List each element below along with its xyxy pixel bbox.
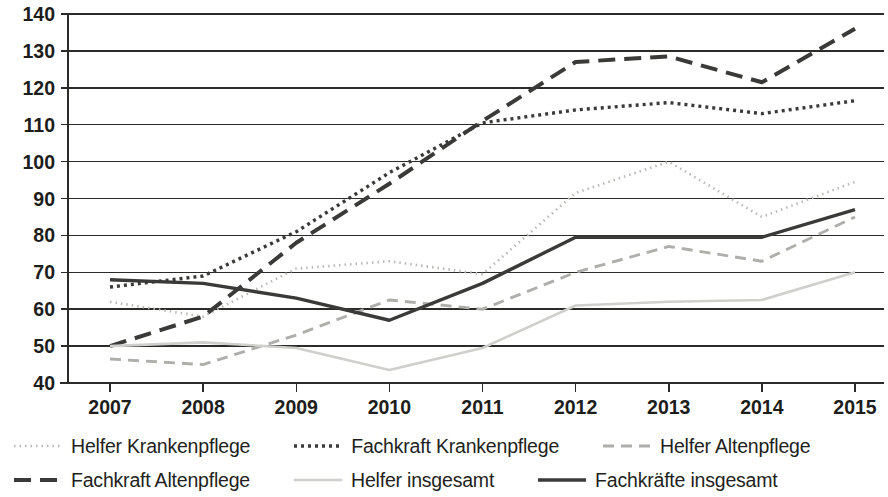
- series-line-helfer-krankenpflege: [110, 162, 855, 317]
- legend-label: Helfer insgesamt: [351, 469, 494, 492]
- y-tick-label: 100: [22, 151, 55, 173]
- data-series: [110, 29, 855, 370]
- legend-swatch-dotted-dark: [294, 439, 342, 453]
- legend-swatch-dotted-light: [14, 439, 62, 453]
- legend-swatch-solid-dark-glyph: [538, 473, 586, 487]
- legend-item-helfer-insgesamt[interactable]: Helfer insgesamt: [294, 463, 494, 497]
- legend-row: Helfer Krankenpflege Fachkraft Krankenpf…: [14, 429, 880, 463]
- y-tick-label: 120: [22, 77, 55, 99]
- legend-swatch-solid-light: [294, 473, 342, 487]
- x-tick-label: 2011: [461, 396, 503, 418]
- y-tick-label: 140: [22, 3, 55, 25]
- x-tick-label: 2012: [554, 396, 598, 418]
- y-tick-label: 40: [33, 372, 55, 394]
- chart-legend: Helfer Krankenpflege Fachkraft Krankenpf…: [0, 425, 888, 497]
- legend-label: Fachkraft Altenpflege: [71, 469, 250, 492]
- x-axis-tick-labels: 200720082009201020112012201320142015: [88, 396, 877, 418]
- legend-swatch-dotted-light-glyph: [14, 439, 62, 453]
- legend-item-fachkraefte-insgesamt[interactable]: Fachkräfte insgesamt: [538, 463, 777, 497]
- legend-swatch-longdash-dark-glyph: [14, 473, 62, 487]
- gridlines: [61, 14, 884, 383]
- y-axis-tick-labels: 405060708090100110120130140: [22, 3, 55, 394]
- line-chart: 405060708090100110120130140 200720082009…: [0, 0, 888, 497]
- legend-label: Fachkräfte insgesamt: [595, 469, 777, 492]
- series-line-fachkraft-altenpflege: [110, 29, 855, 346]
- y-tick-label: 110: [24, 114, 56, 136]
- y-tick-label: 90: [33, 188, 55, 210]
- legend-item-fachkraft-altenpflege[interactable]: Fachkraft Altenpflege: [14, 463, 250, 497]
- legend-row: Fachkraft Altenpflege Helfer insgesamt F…: [14, 463, 880, 497]
- x-tick-label: 2007: [88, 396, 131, 418]
- x-tick-label: 2009: [275, 396, 319, 418]
- legend-label: Fachkraft Krankenpflege: [351, 435, 559, 458]
- x-tick-label: 2015: [833, 396, 877, 418]
- x-tick-label: 2010: [368, 396, 412, 418]
- y-tick-label: 60: [33, 298, 55, 320]
- y-tick-label: 130: [22, 40, 55, 62]
- y-tick-label: 70: [33, 261, 55, 283]
- legend-label: Helfer Altenpflege: [660, 435, 810, 458]
- y-tick-label: 80: [33, 224, 55, 246]
- legend-label: Helfer Krankenpflege: [71, 435, 250, 458]
- legend-swatch-dotted-dark-glyph: [294, 439, 342, 453]
- x-tick-label: 2014: [740, 396, 784, 418]
- legend-swatch-solid-dark: [538, 473, 586, 487]
- legend-item-fachkraft-krankenpflege[interactable]: Fachkraft Krankenpflege: [294, 429, 559, 463]
- legend-item-helfer-krankenpflege[interactable]: Helfer Krankenpflege: [14, 429, 250, 463]
- chart-svg: 405060708090100110120130140 200720082009…: [0, 0, 888, 425]
- legend-swatch-dashed-light-glyph: [603, 439, 651, 453]
- y-tick-label: 50: [33, 335, 55, 357]
- x-axis-ticks: [110, 383, 855, 392]
- legend-swatch-solid-light-glyph: [294, 473, 342, 487]
- legend-item-helfer-altenpflege[interactable]: Helfer Altenpflege: [603, 429, 810, 463]
- legend-swatch-longdash-dark: [14, 473, 62, 487]
- x-tick-label: 2008: [181, 396, 225, 418]
- x-tick-label: 2013: [647, 396, 691, 418]
- legend-swatch-dashed-light: [603, 439, 651, 453]
- plot-area: 405060708090100110120130140 200720082009…: [0, 0, 888, 425]
